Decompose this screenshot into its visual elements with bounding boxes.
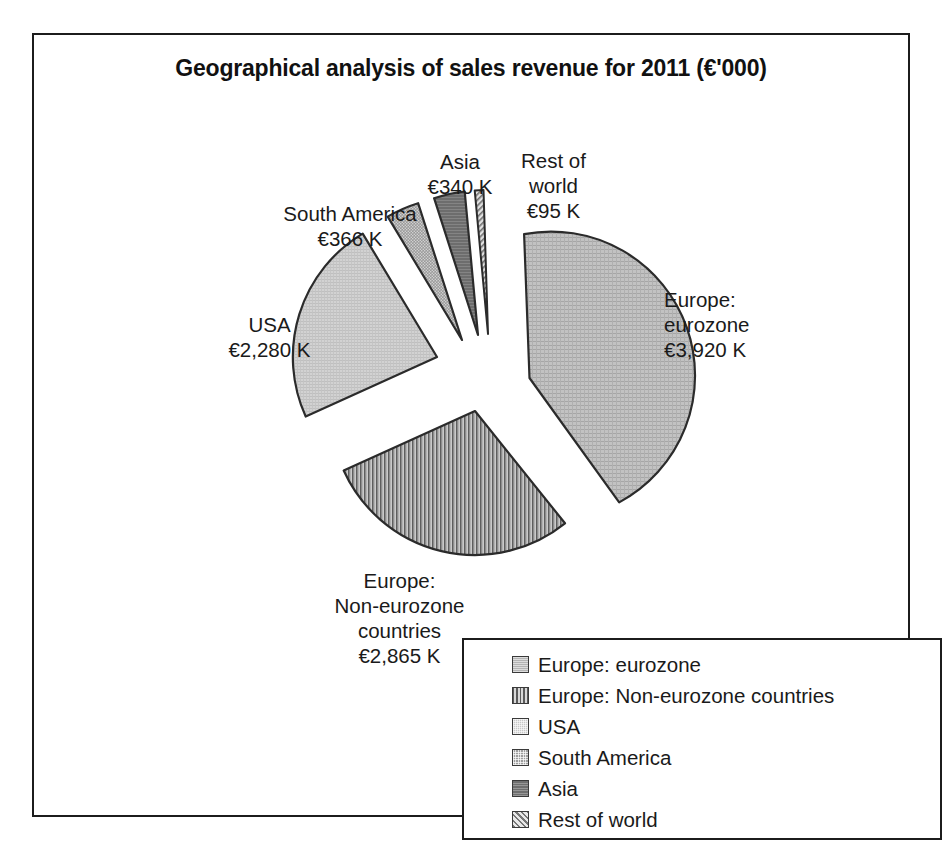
legend-item-south-america[interactable]: South America <box>464 742 940 773</box>
legend-swatch-icon-europe-non-eurozone <box>512 687 529 704</box>
legend-swatch-icon-asia <box>512 780 529 797</box>
legend-swatch-icon-south-america <box>512 749 529 766</box>
slice-label-value: €340 K <box>415 174 505 199</box>
slice-label-south-america: South America €366 K <box>250 201 450 251</box>
slice-label-value: €2,280 K <box>182 337 357 362</box>
slice-label-line-1: USA <box>182 312 357 337</box>
legend-label: Europe: eurozone <box>538 653 701 677</box>
slice-label-value: €366 K <box>250 226 450 251</box>
slice-label-line-1: Europe: <box>292 568 507 593</box>
slice-label-value: €3,920 K <box>664 337 749 362</box>
slice-label-line-1: South America <box>250 201 450 226</box>
slice-label-rest-of-world: Rest of world €95 K <box>501 148 606 223</box>
legend-label: South America <box>538 746 671 770</box>
pie-slice-europe-non-eurozone[interactable] <box>344 411 565 555</box>
slice-label-line-1: Asia <box>415 149 505 174</box>
slice-label-europe-eurozone: Europe: eurozone €3,920 K <box>664 287 749 362</box>
legend-label: Rest of world <box>538 808 658 832</box>
slice-label-line-1: Rest of <box>501 148 606 173</box>
slice-label-line-2: world <box>501 173 606 198</box>
slice-label-usa: USA €2,280 K <box>182 312 357 362</box>
slice-label-line-2: eurozone <box>664 312 749 337</box>
pie-slice-europe-eurozone[interactable] <box>524 232 695 503</box>
slice-label-line-1: Europe: <box>664 287 749 312</box>
chart-legend: Europe: eurozone Europe: Non-eurozone co… <box>462 638 942 840</box>
legend-item-usa[interactable]: USA <box>464 711 940 742</box>
legend-item-europe-eurozone[interactable]: Europe: eurozone <box>464 649 940 680</box>
legend-swatch-icon-usa <box>512 718 529 735</box>
legend-label: USA <box>538 715 580 739</box>
legend-item-asia[interactable]: Asia <box>464 773 940 804</box>
slice-label-asia: Asia €340 K <box>415 149 505 199</box>
legend-item-rest-of-world[interactable]: Rest of world <box>464 804 940 835</box>
slice-label-value: €95 K <box>501 198 606 223</box>
legend-swatch-icon-rest-of-world <box>512 811 529 828</box>
legend-swatch-icon-europe-eurozone <box>512 656 529 673</box>
legend-item-europe-non-eurozone[interactable]: Europe: Non-eurozone countries <box>464 680 940 711</box>
slice-label-line-2: Non-eurozone <box>292 593 507 618</box>
legend-label: Asia <box>538 777 578 801</box>
legend-label: Europe: Non-eurozone countries <box>538 684 834 708</box>
chart-frame: Geographical analysis of sales revenue f… <box>32 33 910 817</box>
